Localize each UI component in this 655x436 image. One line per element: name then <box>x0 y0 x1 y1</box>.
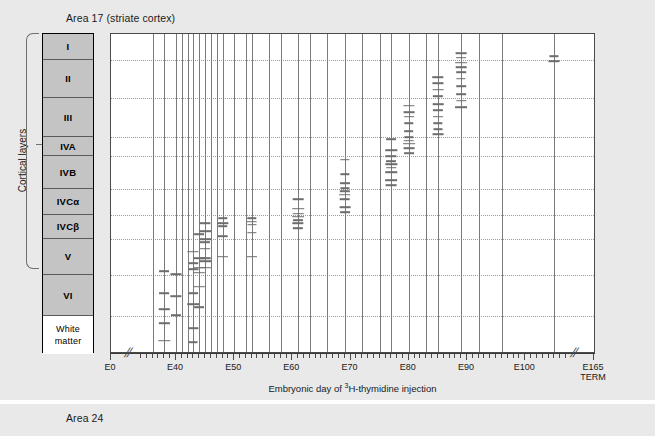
labelled-neuron-mark <box>403 148 414 150</box>
labelled-neuron-mark <box>200 257 211 259</box>
labelled-neuron-mark <box>188 251 199 253</box>
x-tick-minor <box>239 354 240 358</box>
labelled-neuron-mark <box>404 130 414 132</box>
x-tick-minor <box>256 354 257 358</box>
labelled-neuron-mark <box>339 199 350 201</box>
labelled-neuron-mark <box>433 103 444 105</box>
x-tick-label-E100: E100 <box>514 362 535 372</box>
labelled-neuron-mark <box>456 71 466 73</box>
labelled-neuron-mark <box>199 261 211 263</box>
gridline-layer-boundary <box>111 137 594 138</box>
labelled-neuron-mark <box>159 323 169 325</box>
labelled-neuron-mark <box>404 140 415 142</box>
labelled-neuron-mark <box>189 262 199 264</box>
injection-column <box>327 34 328 352</box>
labelled-neuron-mark <box>293 227 303 229</box>
x-tick-label-line: E40 <box>167 362 183 372</box>
labelled-neuron-mark <box>404 116 414 118</box>
x-tick-major-E0 <box>110 354 111 360</box>
x-tick-minor <box>437 354 438 358</box>
x-tick-label-line: E165 <box>580 362 606 372</box>
x-tick-minor <box>513 354 514 358</box>
labelled-neuron-mark <box>189 342 198 344</box>
x-tick-minor <box>367 354 368 358</box>
labelled-neuron-mark <box>292 208 304 210</box>
labelled-neuron-mark <box>217 235 228 237</box>
x-tick-label-E0: E0 <box>104 362 115 372</box>
panel-area-24: Area 24 <box>0 404 655 436</box>
x-tick-minor <box>373 354 374 358</box>
x-tick-major-E90 <box>466 354 467 360</box>
labelled-neuron-mark <box>386 156 397 158</box>
gridline-layer-boundary <box>111 98 594 99</box>
x-tick-minor <box>530 354 531 358</box>
x-tick-minor <box>419 354 420 358</box>
labelled-neuron-mark <box>433 122 442 124</box>
x-tick-minor <box>431 354 432 358</box>
injection-column-e44 <box>199 34 200 352</box>
injection-column-e40 <box>176 34 177 352</box>
x-tick-minor <box>449 354 450 358</box>
gridline-layer-boundary <box>111 215 594 216</box>
cortical-layer-ivcα: IVCα <box>43 189 93 215</box>
labelled-neuron-mark <box>194 234 204 236</box>
x-tick-label-line: E80 <box>400 362 416 372</box>
labelled-neuron-mark <box>159 270 169 272</box>
labelled-neuron-mark <box>200 248 210 250</box>
x-tick-label-line: E50 <box>225 362 241 372</box>
labelled-neuron-mark <box>159 340 170 342</box>
labelled-neuron-mark <box>293 199 304 201</box>
labelled-neuron-mark <box>159 308 169 310</box>
labelled-neuron-mark <box>432 76 444 78</box>
x-tick-label-line: E0 <box>104 362 115 372</box>
labelled-neuron-mark <box>339 207 350 209</box>
injection-column <box>269 34 270 352</box>
x-tick-minor <box>338 354 339 358</box>
injection-column <box>281 34 282 352</box>
labelled-neuron-mark <box>159 292 169 294</box>
labelled-neuron-mark <box>404 152 414 154</box>
x-tick-minor <box>495 354 496 358</box>
cortical-layer-column: IIIIIIIVAIVBIVCαIVCβVVIWhitematter <box>42 33 94 353</box>
x-axis-title: Embryonic day of 3H-thymidine injection <box>110 382 595 394</box>
labelled-neuron-mark <box>456 67 467 69</box>
labelled-neuron-mark <box>455 62 467 64</box>
x-tick-label-E90: E90 <box>458 362 474 372</box>
white-matter-line-1: White <box>56 323 80 335</box>
labelled-neuron-mark <box>433 129 442 131</box>
labelled-neuron-mark <box>403 143 415 145</box>
cortical-layer-white-matter: Whitematter <box>43 316 93 354</box>
x-tick-major-E165 <box>593 354 594 360</box>
x-tick-minor <box>425 354 426 358</box>
gridline-layer-boundary <box>111 316 594 317</box>
cortical-layer-ivb: IVB <box>43 156 93 189</box>
x-tick-minor <box>396 354 397 358</box>
labelled-neuron-mark <box>218 256 228 258</box>
labelled-neuron-mark <box>385 179 397 181</box>
labelled-neuron-mark <box>386 184 397 186</box>
labelled-neuron-mark <box>456 94 466 96</box>
labelled-neuron-mark <box>247 232 256 234</box>
labelled-neuron-mark <box>433 95 443 97</box>
injection-column <box>234 34 235 352</box>
x-tick-label-E60: E60 <box>283 362 299 372</box>
x-tick-minor <box>518 354 519 358</box>
x-tick-minor <box>379 354 380 358</box>
labelled-neuron-mark <box>433 89 444 91</box>
x-tick-major-E50 <box>233 354 234 360</box>
x-tick-minor <box>297 354 298 358</box>
x-tick-minor <box>262 354 263 358</box>
x-tick-minor <box>140 354 141 358</box>
x-tick-minor <box>163 354 164 358</box>
x-tick-minor <box>548 354 549 358</box>
x-tick-minor <box>198 354 199 358</box>
x-tick-minor <box>501 354 502 358</box>
x-tick-minor <box>489 354 490 358</box>
labelled-neuron-mark <box>456 57 466 59</box>
injection-column <box>182 34 183 352</box>
labelled-neuron-mark <box>218 226 228 228</box>
x-tick-label-line: E100 <box>514 362 535 372</box>
x-tick-minor <box>443 354 444 358</box>
x-tick-minor <box>460 354 461 358</box>
labelled-neuron-mark <box>456 52 467 54</box>
